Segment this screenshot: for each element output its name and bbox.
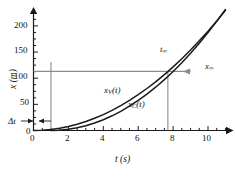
x-axis-title: t (s) bbox=[115, 155, 130, 165]
x-tick-label-10: 10 bbox=[202, 134, 211, 143]
y-tick-label-150: 150 bbox=[14, 46, 28, 55]
y-tick-label-200: 200 bbox=[14, 21, 28, 30]
x-tick-label-0: 0 bbox=[30, 134, 35, 143]
x-axis-arrowhead bbox=[226, 127, 234, 134]
t-infinity-label: t∞ bbox=[160, 45, 167, 55]
t-infinity-subscript: ∞ bbox=[163, 47, 168, 54]
x-tick-label-6: 6 bbox=[135, 134, 140, 143]
figure-container: 200 150 100 50 0 0 2 4 6 8 10 t (s) x (m… bbox=[0, 0, 235, 179]
series-group bbox=[34, 9, 226, 130]
series-line-xc bbox=[51, 9, 226, 130]
x-tick-label-2: 2 bbox=[65, 134, 70, 143]
series-label-xv: xV(t) bbox=[104, 86, 120, 96]
x-tick-label-4: 4 bbox=[100, 134, 105, 143]
x-infinity-label: x∞ bbox=[205, 62, 214, 72]
series-line-xv bbox=[34, 10, 226, 130]
series-label-xv-arg: (t) bbox=[112, 85, 121, 95]
y-axis-title-text: x (m) bbox=[8, 69, 18, 89]
x-infinity-arrowhead bbox=[183, 68, 190, 74]
series-label-xc: xC(t) bbox=[128, 100, 145, 110]
delta-t-axis-pointer-arrowhead bbox=[28, 118, 33, 123]
guide-line-group bbox=[21, 62, 191, 131]
x-axis-title-text: t (s) bbox=[115, 154, 130, 164]
series-label-xc-arg: (t) bbox=[136, 99, 145, 109]
x-tick-label-8: 8 bbox=[170, 134, 175, 143]
x-infinity-subscript: ∞ bbox=[209, 64, 214, 71]
delta-t-text: Δt bbox=[8, 116, 16, 126]
axis-group bbox=[30, 7, 234, 134]
delta-t-span-arrowhead bbox=[39, 118, 44, 123]
delta-t-label: Δt bbox=[8, 117, 16, 126]
y-tick-label-50: 50 bbox=[20, 98, 29, 107]
y-axis-title: x (m) bbox=[8, 56, 18, 102]
